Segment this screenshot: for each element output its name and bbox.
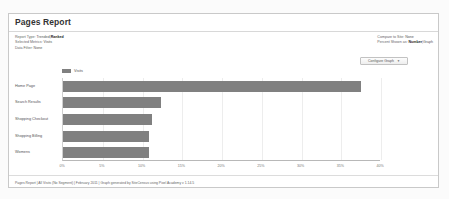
meta-data-filter-label: Data Filter:: [15, 46, 33, 50]
meta-selected-metrics-value[interactable]: Visits: [44, 40, 53, 44]
bar[interactable]: [63, 131, 149, 142]
meta-report-type-label: Report Type:: [15, 35, 36, 39]
bar[interactable]: [63, 147, 149, 158]
gridline: [381, 78, 382, 160]
bar[interactable]: [63, 114, 152, 125]
tick-label: 35%: [337, 164, 344, 168]
report-meta-left: Report Type: Trended|Ranked Selected Met…: [15, 35, 64, 51]
category-label[interactable]: Shopping Billing: [15, 134, 59, 138]
configure-graph-button[interactable]: Configure Graph ▼: [360, 57, 408, 65]
footer-divider: [9, 175, 438, 176]
meta-selected-metrics-label: Selected Metrics:: [15, 40, 43, 44]
category-label[interactable]: Home Page: [15, 84, 59, 88]
tick-label: 15%: [178, 164, 185, 168]
meta-report-type-option-ranked[interactable]: Ranked: [51, 35, 64, 39]
meta-percent-option-graph[interactable]: Graph: [423, 40, 433, 44]
meta-percent-shown-as-label: Percent Shown as:: [377, 40, 407, 44]
report-meta-right: Compare to Site: None Percent Shown as: …: [377, 35, 433, 46]
report-page: Pages Report Report Type: Trended|Ranked…: [0, 0, 449, 199]
table-row[interactable]: [63, 114, 152, 125]
tick-label: 10%: [138, 164, 145, 168]
pages-report-card: Pages Report Report Type: Trended|Ranked…: [8, 13, 439, 188]
legend-swatch-visits: [62, 69, 71, 73]
meta-percent-shown-as: Percent Shown as: Number|Graph: [377, 40, 433, 45]
configure-graph-label: Configure Graph: [368, 59, 394, 63]
meta-percent-option-number[interactable]: Number: [408, 40, 422, 44]
chart-legend: Visits: [62, 69, 83, 73]
table-row[interactable]: [63, 97, 161, 108]
chart-container: Visits Home PageSearch ResultsShopping C…: [15, 69, 433, 179]
tick-label: 5%: [99, 164, 104, 168]
tick-label: 40%: [376, 164, 383, 168]
tick-label: 25%: [257, 164, 264, 168]
bar-chart-plot: [62, 78, 380, 161]
table-row[interactable]: [63, 81, 361, 92]
page-title: Pages Report: [15, 17, 71, 27]
category-label[interactable]: Search Results: [15, 100, 59, 104]
tick-label: 30%: [297, 164, 304, 168]
bar-series-visits: [63, 78, 380, 160]
category-label[interactable]: Womens: [15, 150, 59, 154]
bar[interactable]: [63, 97, 161, 108]
tick-label: 20%: [217, 164, 224, 168]
report-footer: Pages Report | All Visits (No Segment) |…: [15, 181, 194, 185]
bar[interactable]: [63, 81, 361, 92]
meta-report-type-option-trended[interactable]: Trended: [36, 35, 49, 39]
table-row[interactable]: [63, 131, 149, 142]
meta-compare-to-site-value[interactable]: None: [405, 35, 414, 39]
chevron-down-icon: ▼: [397, 60, 400, 63]
category-label[interactable]: Shopping Checkout: [15, 117, 59, 121]
title-divider: [9, 31, 438, 32]
meta-data-filter-value[interactable]: None: [34, 46, 43, 50]
legend-label-visits: Visits: [74, 69, 83, 73]
table-row[interactable]: [63, 147, 149, 158]
meta-data-filter: Data Filter: None: [15, 46, 64, 51]
tick-label: 0%: [59, 164, 64, 168]
meta-compare-to-site-label: Compare to Site:: [377, 35, 404, 39]
